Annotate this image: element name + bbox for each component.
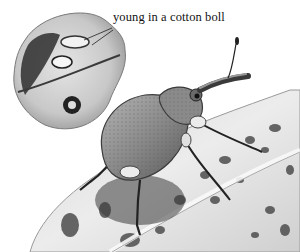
cotton-boll-inset (14, 13, 126, 129)
caption-label: young in a cotton boll (113, 10, 225, 25)
weevil-illustration (0, 0, 300, 252)
